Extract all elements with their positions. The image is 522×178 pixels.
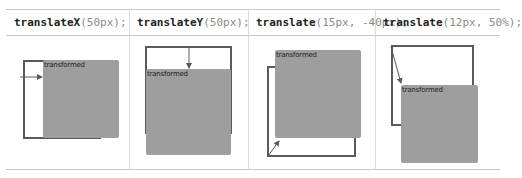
- header-cell-translatey: translateY(50px);: [129, 10, 248, 35]
- function-args: (50px);: [80, 16, 126, 29]
- function-name: translateX: [14, 16, 80, 29]
- header-cell-translatex: translateX(50px);: [6, 10, 129, 35]
- transformed-label: transformed: [147, 70, 188, 78]
- header-cell-translate-12-50: translate(12px, 50%);: [375, 10, 500, 35]
- header-cell-translate-15-40: translate(15px, -40px);: [248, 10, 375, 35]
- transformed-box: transformed: [275, 50, 361, 138]
- function-name: translateY: [137, 16, 203, 29]
- transformed-box: transformed: [401, 85, 478, 163]
- transformed-label: transformed: [402, 86, 443, 94]
- function-name: translate: [256, 16, 316, 29]
- table-bottom-border: [6, 169, 500, 170]
- function-args: (12px, 50%);: [443, 16, 522, 29]
- function-args: (50px);: [203, 16, 249, 29]
- function-name: translate: [383, 16, 443, 29]
- transformed-label: transformed: [44, 61, 85, 69]
- transformed-label: transformed: [276, 51, 317, 59]
- transformed-box: transformed: [146, 69, 231, 155]
- transformed-box: transformed: [43, 60, 119, 138]
- header-bottom-border: [6, 35, 500, 36]
